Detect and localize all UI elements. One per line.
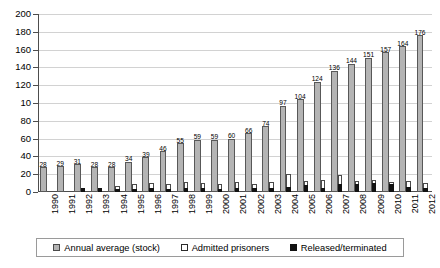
bar-group: 176 xyxy=(415,14,432,192)
x-axis-tick: 1998 xyxy=(175,194,192,232)
bar-annual-average: 157 xyxy=(382,52,389,192)
bar-released-terminated xyxy=(355,184,359,192)
x-axis-tick-label: 2012 xyxy=(428,194,437,214)
bar-released-terminated xyxy=(389,184,393,192)
legend-label-released: Released/terminated xyxy=(301,243,387,253)
bar-released-terminated xyxy=(132,189,136,192)
bar-released-terminated xyxy=(286,187,290,192)
bar-group: 136 xyxy=(329,14,346,192)
bar-value-label: 104 xyxy=(295,93,306,100)
bar-value-label: 59 xyxy=(194,133,201,140)
y-axis-tick-label: 180 xyxy=(15,27,31,37)
bar-group: 97 xyxy=(278,14,295,192)
bar-value-label: 55 xyxy=(176,137,183,144)
legend-swatch-released-icon xyxy=(290,244,297,251)
x-axis-tick: 2000 xyxy=(209,194,226,232)
bar-annual-average: 28 xyxy=(91,167,98,192)
bar-value-label: 157 xyxy=(380,46,391,53)
y-axis-tick-mark xyxy=(33,192,38,193)
x-axis-tick: 1997 xyxy=(158,194,175,232)
bar-released-terminated xyxy=(218,189,222,192)
bar-group: 104 xyxy=(295,14,312,192)
bar-value-label: 29 xyxy=(57,160,64,167)
bar-annual-average: 39 xyxy=(142,157,149,192)
x-axis: 1990199119921993199419951996199719981999… xyxy=(38,194,432,232)
x-axis-tick: 1999 xyxy=(192,194,209,232)
bar-value-label: 151 xyxy=(363,51,374,58)
bar-group: 28 xyxy=(38,14,55,192)
x-axis-tick: 2008 xyxy=(346,194,363,232)
bar-annual-average: 34 xyxy=(125,162,132,192)
bar-released-terminated xyxy=(81,188,85,192)
bar-annual-average: 136 xyxy=(331,71,338,192)
bar-released-terminated xyxy=(269,188,273,192)
x-axis-tick: 2010 xyxy=(381,194,398,232)
bar-annual-average: 164 xyxy=(399,46,406,192)
y-axis-tick-label: 80 xyxy=(20,116,31,126)
y-axis-tick-label: 10 xyxy=(20,98,31,108)
x-axis-tick: 1991 xyxy=(55,194,72,232)
bar-released-terminated xyxy=(304,185,308,192)
bar-annual-average: 29 xyxy=(57,166,64,192)
bar-group: 164 xyxy=(398,14,415,192)
y-axis-tick-label: 40 xyxy=(20,152,31,162)
y-axis-tick-label: 160 xyxy=(15,45,31,55)
bar-value-label: 176 xyxy=(414,29,425,36)
x-axis-tick: 1996 xyxy=(141,194,158,232)
bar-group: 151 xyxy=(363,14,380,192)
y-axis-tick-label: 120 xyxy=(15,80,31,90)
bar-released-terminated xyxy=(321,188,325,192)
bar-group: 34 xyxy=(124,14,141,192)
bar-group: 60 xyxy=(226,14,243,192)
legend-label-stock: Annual average (stock) xyxy=(64,243,160,253)
bar-group: 28 xyxy=(89,14,106,192)
bar-released-terminated xyxy=(372,183,376,192)
bar-annual-average: 97 xyxy=(280,106,287,192)
x-axis-tick: 2009 xyxy=(363,194,380,232)
x-axis-tick: 1990 xyxy=(38,194,55,232)
bar-group: 59 xyxy=(192,14,209,192)
bar-annual-average: 55 xyxy=(177,143,184,192)
bar-released-terminated xyxy=(235,188,239,192)
bar-annual-average: 46 xyxy=(160,151,167,192)
bar-value-label: 39 xyxy=(142,151,149,158)
bar-released-terminated xyxy=(166,189,170,192)
bar-value-label: 164 xyxy=(397,40,408,47)
bar-annual-average: 144 xyxy=(348,64,355,192)
y-axis-tick-label: 60 xyxy=(20,134,31,144)
bar-value-label: 28 xyxy=(39,161,46,168)
bar-annual-average: 31 xyxy=(74,164,81,192)
x-axis-tick: 2003 xyxy=(261,194,278,232)
bar-released-terminated xyxy=(338,184,342,192)
bar-released-terminated xyxy=(184,188,188,192)
x-axis-tick: 1993 xyxy=(89,194,106,232)
y-axis-tick-label: 20 xyxy=(20,169,31,179)
bar-group: 31 xyxy=(72,14,89,192)
bar-group: 46 xyxy=(158,14,175,192)
bar-group: 74 xyxy=(261,14,278,192)
bar-group: 144 xyxy=(346,14,363,192)
x-axis-tick: 1995 xyxy=(124,194,141,232)
bar-released-terminated xyxy=(149,188,153,192)
bar-released-terminated xyxy=(252,188,256,192)
x-axis-tick: 2002 xyxy=(244,194,261,232)
bar-value-label: 31 xyxy=(74,158,81,165)
bar-value-label: 66 xyxy=(245,127,252,134)
bar-released-terminated xyxy=(115,189,119,192)
bar-group: 39 xyxy=(141,14,158,192)
bar-annual-average: 60 xyxy=(228,139,235,192)
bar-group: 66 xyxy=(244,14,261,192)
bar-value-label: 46 xyxy=(159,145,166,152)
y-axis-tick-label: 200 xyxy=(15,9,31,19)
x-axis-tick: 1992 xyxy=(72,194,89,232)
bar-value-label: 28 xyxy=(91,161,98,168)
x-axis-tick: 1994 xyxy=(107,194,124,232)
bar-group: 29 xyxy=(55,14,72,192)
bars-layer: 2829312828343946555959606674971041241361… xyxy=(38,14,432,192)
x-axis-tick: 2011 xyxy=(398,194,415,232)
legend-swatch-stock-icon xyxy=(53,244,60,251)
bar-value-label: 59 xyxy=(211,133,218,140)
legend-label-admitted: Admitted prisoners xyxy=(192,243,270,253)
bar-value-label: 124 xyxy=(312,75,323,82)
bar-value-label: 34 xyxy=(125,155,132,162)
